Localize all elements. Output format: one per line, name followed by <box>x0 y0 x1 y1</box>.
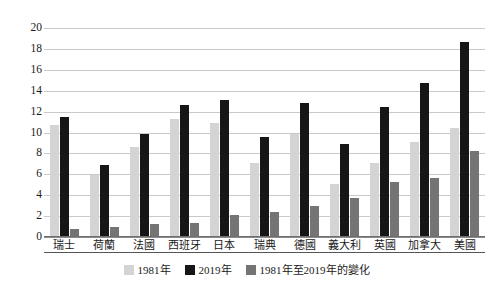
bar <box>410 142 419 237</box>
y-tick-label-16: 16 <box>16 64 42 76</box>
y-tick-label-20: 20 <box>16 22 42 34</box>
bar <box>270 212 279 237</box>
bar <box>250 163 259 237</box>
bar <box>470 151 479 237</box>
bar <box>210 123 219 237</box>
x-axis-label: 美國 <box>445 238 485 254</box>
legend-label: 2019年 <box>199 264 232 276</box>
bar <box>420 83 429 237</box>
bar-group <box>84 28 124 237</box>
bar <box>300 103 309 237</box>
legend-item[interactable]: 2019年 <box>185 264 232 276</box>
x-axis-label: 荷蘭 <box>84 238 124 254</box>
bar <box>450 128 459 237</box>
bar <box>260 137 269 237</box>
x-axis-label: 日本 <box>204 238 244 254</box>
y-tick-label-14: 14 <box>16 85 42 97</box>
bar <box>220 100 229 237</box>
chart-legend: 1981年2019年1981年至2019年的變化 <box>0 264 493 276</box>
bar-group <box>445 28 485 237</box>
bar-group <box>244 28 284 237</box>
bar <box>380 107 389 237</box>
x-axis-label: 法國 <box>124 238 164 254</box>
x-axis-category-labels: 瑞士荷蘭法國西班牙日本瑞典德國義大利英國加拿大美國 <box>44 238 485 254</box>
x-axis-label: 德國 <box>285 238 325 254</box>
bar <box>370 163 379 237</box>
bar-group <box>405 28 445 237</box>
bar <box>90 175 99 237</box>
y-tick-label-6: 6 <box>16 169 42 181</box>
bar-groups <box>44 28 485 237</box>
y-tick-label-8: 8 <box>16 148 42 160</box>
y-tick-label-0: 0 <box>16 231 42 243</box>
bar <box>330 184 339 237</box>
bar <box>290 134 299 237</box>
bar <box>180 105 189 237</box>
bar-group <box>365 28 405 237</box>
legend-label: 1981年至2019年的變化 <box>260 264 370 276</box>
bar-group <box>44 28 84 237</box>
legend-item[interactable]: 1981年 <box>124 264 171 276</box>
legend-label: 1981年 <box>138 264 171 276</box>
plot-area <box>44 28 485 237</box>
bar-chart: 02468101214161820 瑞士荷蘭法國西班牙日本瑞典德國義大利英國加拿… <box>0 0 493 293</box>
bar <box>340 144 349 237</box>
x-axis-label: 英國 <box>365 238 405 254</box>
x-axis-label: 加拿大 <box>405 238 445 254</box>
bar <box>100 165 109 237</box>
bar-group <box>124 28 164 237</box>
x-axis-label: 瑞典 <box>244 238 284 254</box>
x-axis-label: 西班牙 <box>164 238 204 254</box>
legend-swatch-icon <box>124 265 134 275</box>
bar <box>140 134 149 237</box>
bar-group <box>325 28 365 237</box>
x-axis-line <box>44 236 485 237</box>
bar <box>170 119 179 237</box>
bar <box>60 117 69 237</box>
y-tick-label-18: 18 <box>16 43 42 55</box>
y-tick-label-12: 12 <box>16 106 42 118</box>
bar <box>130 147 139 237</box>
legend-item[interactable]: 1981年至2019年的變化 <box>246 264 370 276</box>
y-tick-label-10: 10 <box>16 127 42 139</box>
bar <box>230 215 239 237</box>
bar <box>350 198 359 237</box>
bar <box>190 223 199 237</box>
bar-group <box>204 28 244 237</box>
x-axis-label: 瑞士 <box>44 238 84 254</box>
legend-swatch-icon <box>185 265 195 275</box>
legend-swatch-icon <box>246 265 256 275</box>
x-axis-label: 義大利 <box>325 238 365 254</box>
bar-group <box>285 28 325 237</box>
bar <box>460 42 469 237</box>
bar <box>310 206 319 237</box>
bar-group <box>164 28 204 237</box>
bar <box>430 178 439 237</box>
bar <box>50 125 59 237</box>
y-tick-label-2: 2 <box>16 210 42 222</box>
bar <box>390 182 399 237</box>
y-tick-label-4: 4 <box>16 189 42 201</box>
